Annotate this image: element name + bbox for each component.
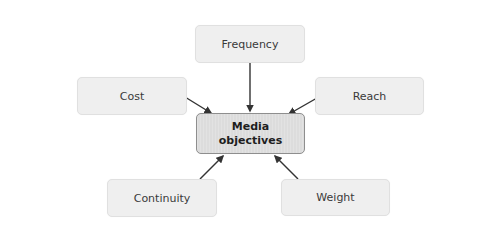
arrow-reach-to-center [289, 98, 317, 114]
node-continuity-label: Continuity [130, 192, 195, 205]
center-label-line2: objectives [215, 134, 286, 148]
node-cost: Cost [77, 77, 187, 115]
node-reach-label: Reach [349, 90, 391, 103]
node-weight-label: Weight [312, 191, 358, 204]
arrow-continuity-to-center [200, 156, 223, 179]
media-objectives-diagram: Frequency Cost Reach Media objectives Co… [0, 0, 500, 240]
node-reach: Reach [315, 77, 424, 115]
node-continuity: Continuity [107, 179, 217, 217]
node-frequency-label: Frequency [218, 38, 283, 51]
node-cost-label: Cost [116, 90, 148, 103]
node-frequency: Frequency [195, 25, 305, 63]
arrow-weight-to-center [275, 156, 298, 179]
node-weight: Weight [281, 179, 390, 216]
node-media-objectives: Media objectives [196, 113, 305, 154]
arrow-cost-to-center [185, 97, 211, 113]
center-label-line1: Media [228, 120, 273, 134]
